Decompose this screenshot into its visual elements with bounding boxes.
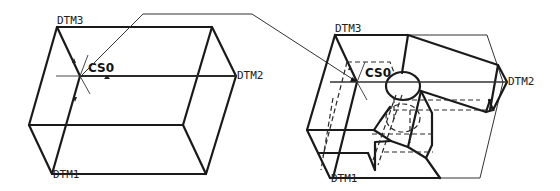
left-dtm2-label: DTM2 bbox=[237, 69, 264, 82]
left-cs0-label: CS0 bbox=[88, 61, 114, 75]
left-dtm3-label: DTM3 bbox=[57, 14, 84, 27]
left-dtm1-label: DTM1 bbox=[53, 168, 80, 181]
right-part bbox=[307, 35, 507, 178]
right-cs0-label: CS0 bbox=[365, 66, 391, 80]
left-block bbox=[29, 27, 236, 174]
leader-line bbox=[82, 14, 357, 82]
diagram-canvas: DTM3 DTM2 DTM1 CS0 bbox=[0, 0, 560, 191]
right-dtm2-label: DTM2 bbox=[508, 75, 535, 88]
right-dtm3-label: DTM3 bbox=[335, 22, 362, 35]
right-dtm1-label: DTM1 bbox=[331, 172, 358, 185]
